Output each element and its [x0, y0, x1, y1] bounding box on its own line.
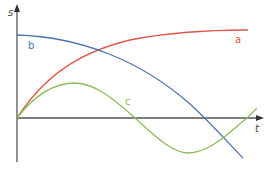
curve-a [17, 30, 248, 118]
y-axis-arrow-icon [14, 4, 20, 12]
y-axis-label: s [8, 8, 13, 18]
curve-b-label: b [28, 41, 34, 51]
curve-c-label: c [125, 97, 131, 107]
x-axis-arrow-icon [256, 115, 264, 121]
x-axis-label: t [255, 124, 259, 134]
chart-canvas [0, 0, 273, 171]
curve-a-label: a [235, 35, 241, 45]
